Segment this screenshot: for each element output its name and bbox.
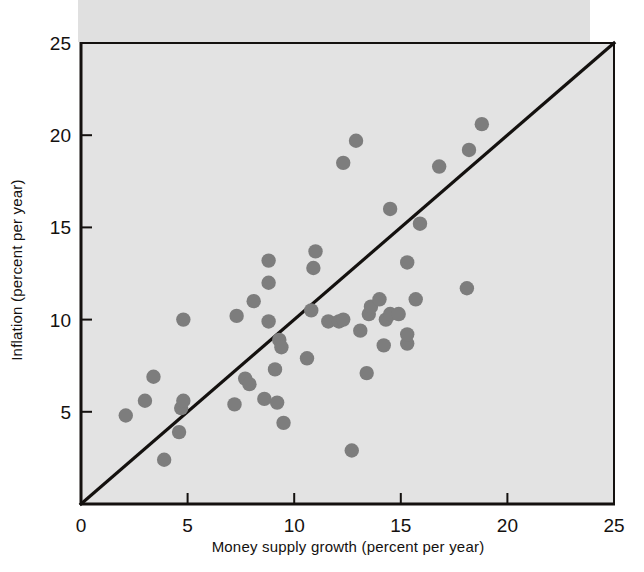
data-point [176,312,190,326]
data-point [172,425,186,439]
y-axis-title: Inflation (percent per year) [8,179,25,361]
y-tick-label-15: 15 [50,217,71,238]
data-point [157,453,171,467]
y-tick-label-20: 20 [50,125,71,146]
data-point [432,159,446,173]
data-point [400,255,414,269]
x-tick-label-20: 20 [497,515,518,536]
data-point [229,309,243,323]
data-point [409,292,423,306]
data-point [391,307,405,321]
data-point [349,134,363,148]
data-point [475,117,489,131]
data-point [146,370,160,384]
data-point [460,281,474,295]
data-point [462,143,476,157]
y-tick-label-10: 10 [50,310,71,331]
data-point [261,276,275,290]
data-point [176,394,190,408]
data-point [276,416,290,430]
data-point [119,408,133,422]
data-point [383,202,397,216]
data-point [336,312,350,326]
data-point [242,377,256,391]
data-point [413,217,427,231]
data-point [359,366,373,380]
data-point [257,392,271,406]
data-point [353,323,367,337]
top-shade-band [78,0,590,42]
y-tick-label-25: 25 [50,33,71,54]
data-point [304,303,318,317]
x-axis-title: Money supply growth (percent per year) [212,538,485,555]
x-tick-label-0: 0 [76,515,87,536]
y-tick-label-5: 5 [60,402,71,423]
data-point [336,156,350,170]
data-point [270,395,284,409]
data-point [377,338,391,352]
data-point [268,362,282,376]
data-point [308,244,322,258]
data-point [400,327,414,341]
x-tick-label-15: 15 [390,515,411,536]
data-point [261,253,275,267]
data-point [261,314,275,328]
data-point [300,351,314,365]
data-point [138,394,152,408]
data-point [227,397,241,411]
data-point [246,294,260,308]
data-point [372,292,386,306]
data-point [345,443,359,457]
x-tick-label-5: 5 [182,515,193,536]
scatter-chart-figure: 0510152025 510152025 Money supply growth… [0,0,644,572]
x-tick-label-10: 10 [284,515,305,536]
x-tick-label-25: 25 [603,515,624,536]
data-point [274,340,288,354]
data-point [306,261,320,275]
